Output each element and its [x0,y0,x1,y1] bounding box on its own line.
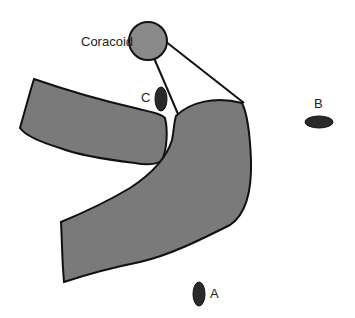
label-coracoid: Coracoid [81,34,133,49]
marker-b [305,116,333,128]
label-b: B [314,96,323,111]
ligament-line-lateral [165,41,244,103]
label-c: C [141,90,150,105]
coracoid-circle [129,22,167,60]
shoulder-diagram: Coracoid C B A [0,0,355,318]
marker-a [193,282,205,306]
label-a: A [210,286,219,301]
marker-c [155,87,167,111]
